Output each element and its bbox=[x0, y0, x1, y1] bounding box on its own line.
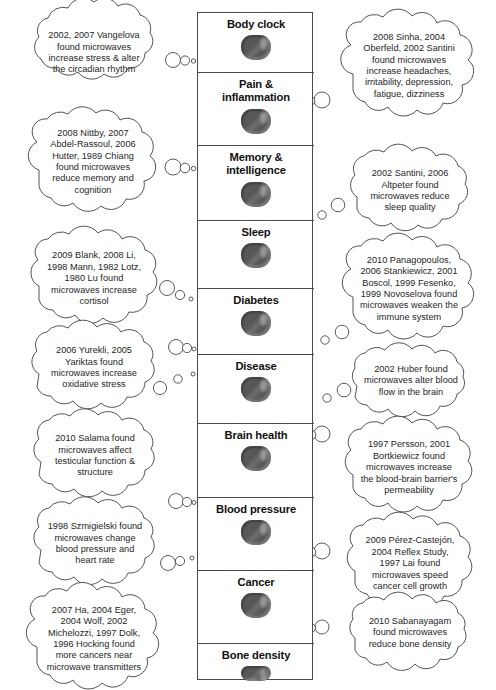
topic-label: Brain health bbox=[225, 429, 288, 442]
topic-label: Disease bbox=[235, 360, 276, 373]
brain-icon bbox=[241, 446, 271, 471]
topic-cell-memory-intelligence[interactable]: Memory & intelligence bbox=[198, 146, 314, 221]
cloud-left-3[interactable]: 2009 Blank, 2008 Li, 1998 Mann, 1982 Lot… bbox=[12, 234, 176, 324]
topic-column: Body clock Pain & inflammation Memory & … bbox=[197, 12, 313, 680]
brain-icon bbox=[241, 311, 271, 336]
topic-cell-disease[interactable]: Disease bbox=[198, 355, 314, 424]
cloud-right-4[interactable]: 2002 Huber found microwaves alter blood … bbox=[330, 348, 492, 414]
cloud-left-5[interactable]: 2010 Salama found microwaves affect test… bbox=[14, 416, 176, 496]
topic-cell-cancer[interactable]: Cancer bbox=[198, 571, 314, 644]
topic-label: Cancer bbox=[237, 576, 274, 589]
topic-label: Body clock bbox=[227, 18, 285, 31]
brain-icon bbox=[241, 243, 271, 268]
cloud-left-6[interactable]: 1998 Szmigielski found microwaves change… bbox=[14, 504, 176, 584]
brain-icon bbox=[241, 377, 271, 402]
cloud-right-3[interactable]: 2010 Panagopoulos, 2006 Stankiewicz, 200… bbox=[326, 240, 492, 338]
topic-cell-body-clock[interactable]: Body clock bbox=[198, 13, 314, 73]
cloud-right-2[interactable]: 2002 Santini, 2006 Altpeter found microw… bbox=[330, 152, 490, 230]
cloud-right-6[interactable]: 2009 Pérez-Castejón, 2004 Reflex Study, … bbox=[328, 520, 492, 608]
topic-cell-pain-inflammation[interactable]: Pain & inflammation bbox=[198, 73, 314, 146]
brain-icon bbox=[241, 182, 271, 207]
topic-label: Blood pressure bbox=[216, 503, 296, 516]
cloud-right-1[interactable]: 2008 Sinha, 2004 Oberfeld, 2002 Santini … bbox=[326, 16, 492, 116]
brain-icon bbox=[241, 35, 271, 60]
brain-icon bbox=[241, 593, 271, 618]
topic-cell-blood-pressure[interactable]: Blood pressure bbox=[198, 498, 314, 571]
brain-icon bbox=[241, 666, 271, 681]
topic-label: Sleep bbox=[241, 226, 270, 239]
topic-cell-bone-density[interactable]: Bone density bbox=[198, 644, 314, 681]
cloud-left-2[interactable]: 2008 Nittby, 2007 Abdel-Rassoul, 2006 Hu… bbox=[12, 113, 174, 211]
topic-label: Diabetes bbox=[233, 294, 278, 307]
topic-label: Bone density bbox=[222, 649, 290, 662]
topic-cell-brain-health[interactable]: Brain health bbox=[198, 424, 314, 498]
topic-cell-diabetes[interactable]: Diabetes bbox=[198, 289, 314, 355]
cloud-left-4[interactable]: 2006 Yurekli, 2005 Yariktas found microw… bbox=[12, 328, 176, 408]
cloud-left-7[interactable]: 2007 Ha, 2004 Eger, 2004 Wolf, 2002 Mich… bbox=[10, 590, 178, 688]
topic-label: Pain & inflammation bbox=[222, 78, 290, 105]
cloud-right-7[interactable]: 2010 Sabanayagam found microwaves reduce… bbox=[328, 598, 492, 668]
cloud-left-1[interactable]: 2002, 2007 Vangelova found microwaves in… bbox=[14, 14, 174, 92]
topic-cell-sleep[interactable]: Sleep bbox=[198, 221, 314, 289]
brain-icon bbox=[241, 109, 271, 134]
topic-label: Memory & intelligence bbox=[226, 151, 286, 178]
diagram-canvas: 2002, 2007 Vangelova found microwaves in… bbox=[0, 0, 496, 690]
brain-icon bbox=[241, 520, 271, 545]
cloud-right-5[interactable]: 1997 Persson, 2001 Bortkiewicz found mic… bbox=[326, 424, 492, 512]
